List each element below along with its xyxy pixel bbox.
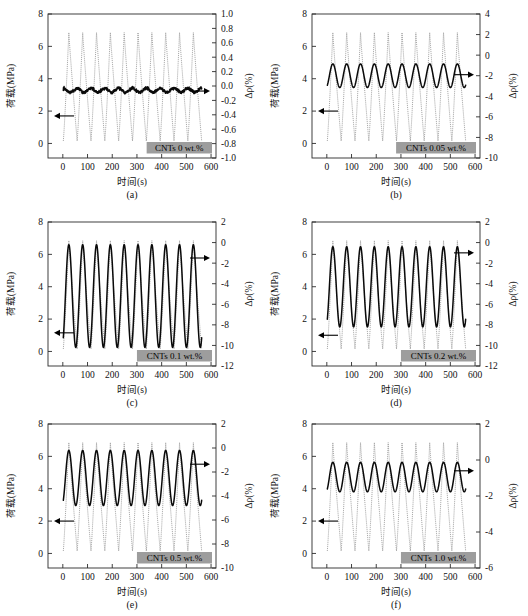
- x-axis-title: 时间(s): [117, 384, 147, 396]
- x-tick-label: 600: [468, 572, 483, 582]
- x-tick-label: 200: [369, 370, 384, 380]
- y-axis-left-title: 荷载(MPa): [269, 64, 281, 108]
- x-tick-label: 400: [419, 572, 434, 582]
- resistivity-curve: [63, 450, 201, 505]
- x-tick-label: 600: [204, 162, 219, 172]
- x-tick-label: 200: [105, 370, 120, 380]
- resistivity-curve: [63, 87, 201, 94]
- x-tick-label: 600: [468, 370, 483, 380]
- y-left-tick-label: 4: [302, 484, 307, 494]
- y-axis-left-title: 荷载(MPa): [5, 474, 17, 518]
- resistivity-curve: [327, 247, 465, 327]
- y-right-tick-label: 0: [485, 51, 490, 61]
- y-left-tick-label: 0: [38, 139, 43, 149]
- x-tick-label: 100: [344, 370, 359, 380]
- y-left-tick-label: 8: [302, 9, 307, 19]
- x-tick-label: 400: [155, 572, 170, 582]
- x-tick-label: 200: [369, 162, 384, 172]
- y-right-tick-label: -0.4: [221, 110, 236, 120]
- panel-caption: (e): [126, 599, 137, 611]
- y-left-tick-label: 6: [38, 250, 43, 260]
- y-left-tick-label: 6: [302, 250, 307, 260]
- chart-panel-d: 01002003004005006000246820-2-4-6-8-10-12…: [264, 208, 528, 410]
- x-tick-label: 0: [60, 162, 65, 172]
- y-right-tick-label: 2: [485, 419, 490, 429]
- y-right-tick-label: -4: [485, 279, 493, 289]
- x-tick-label: 100: [80, 572, 95, 582]
- chart-panel-a: 0100200300400500600024681.00.80.60.40.20…: [0, 0, 264, 208]
- chart-panel-b: 010020030040050060002468420-2-4-6-8-10CN…: [264, 0, 528, 208]
- x-tick-label: 600: [204, 572, 219, 582]
- y-right-tick-label: -6: [485, 563, 493, 573]
- resistivity-curve: [327, 64, 465, 88]
- y-axis-right-title: Δρ(%): [244, 73, 255, 98]
- series-badge-label: CNTs 0.1 wt.%: [147, 351, 203, 361]
- y-right-tick-label: 0: [485, 238, 490, 248]
- x-tick-label: 100: [80, 162, 95, 172]
- y-right-tick-label: 0.4: [221, 53, 233, 63]
- y-right-tick-label: -6: [485, 300, 493, 310]
- y-axis-left-title: 荷载(MPa): [269, 272, 281, 316]
- y-right-tick-label: -4: [485, 92, 493, 102]
- y-right-tick-label: 2: [485, 217, 490, 227]
- y-left-tick-label: 8: [38, 419, 43, 429]
- chart-panel-e: 01002003004005006000246820-2-4-6-8-10CNT…: [0, 410, 264, 616]
- y-left-tick-label: 0: [302, 139, 307, 149]
- y-left-tick-label: 0: [302, 549, 307, 559]
- y-right-tick-label: -10: [221, 563, 234, 573]
- y-left-tick-label: 6: [302, 452, 307, 462]
- x-tick-label: 100: [344, 572, 359, 582]
- y-left-tick-label: 0: [38, 549, 43, 559]
- x-tick-label: 0: [60, 572, 65, 582]
- x-tick-label: 300: [130, 370, 145, 380]
- y-right-tick-label: -10: [221, 341, 234, 351]
- x-tick-label: 600: [468, 162, 483, 172]
- x-axis-title: 时间(s): [381, 384, 411, 396]
- x-tick-label: 0: [324, 162, 329, 172]
- resistivity-curve: [327, 462, 465, 492]
- x-tick-label: 500: [443, 370, 458, 380]
- x-tick-label: 300: [394, 572, 409, 582]
- y-right-tick-label: 2: [485, 30, 490, 40]
- y-right-tick-label: 0.8: [221, 24, 233, 34]
- y-right-tick-label: -10: [485, 153, 498, 163]
- y-axis-right-title: Δρ(%): [244, 483, 255, 508]
- y-right-tick-label: -0.6: [221, 125, 236, 135]
- left-axis-arrowhead: [54, 113, 60, 119]
- y-right-tick-label: 0: [221, 238, 226, 248]
- y-left-tick-label: 4: [38, 484, 43, 494]
- x-tick-label: 500: [443, 572, 458, 582]
- y-right-tick-label: 1.0: [221, 9, 233, 19]
- y-right-tick-label: -4: [221, 491, 229, 501]
- x-tick-label: 0: [324, 572, 329, 582]
- x-tick-label: 400: [155, 162, 170, 172]
- panel-caption: (b): [390, 189, 402, 201]
- x-tick-label: 300: [130, 572, 145, 582]
- x-tick-label: 500: [179, 370, 194, 380]
- y-left-tick-label: 8: [302, 419, 307, 429]
- x-tick-label: 300: [130, 162, 145, 172]
- left-axis-arrowhead: [318, 518, 324, 524]
- series-badge-label: CNTs 0.05 wt.%: [406, 143, 466, 153]
- y-right-tick-label: -6: [485, 112, 493, 122]
- y-axis-left-title: 荷载(MPa): [269, 474, 281, 518]
- y-right-tick-label: 0.2: [221, 67, 233, 77]
- y-left-tick-label: 2: [302, 314, 307, 324]
- series-badge-label: CNTs 0 wt.%: [155, 143, 204, 153]
- x-tick-label: 300: [394, 370, 409, 380]
- y-right-tick-label: -2: [485, 71, 493, 81]
- load-curve: [327, 443, 465, 551]
- right-axis-arrowhead: [468, 468, 474, 474]
- y-left-tick-label: 0: [38, 347, 43, 357]
- x-tick-label: 400: [155, 370, 170, 380]
- y-left-tick-label: 6: [38, 452, 43, 462]
- y-right-tick-label: -8: [485, 133, 493, 143]
- figure-grid: 0100200300400500600024681.00.80.60.40.20…: [0, 0, 528, 616]
- x-axis-title: 时间(s): [117, 586, 147, 598]
- x-tick-label: 200: [105, 572, 120, 582]
- y-axis-right-title: Δρ(%): [508, 483, 519, 508]
- y-left-tick-label: 4: [38, 74, 43, 84]
- x-tick-label: 500: [179, 162, 194, 172]
- y-axis-right-title: Δρ(%): [508, 73, 519, 98]
- x-tick-label: 600: [204, 370, 219, 380]
